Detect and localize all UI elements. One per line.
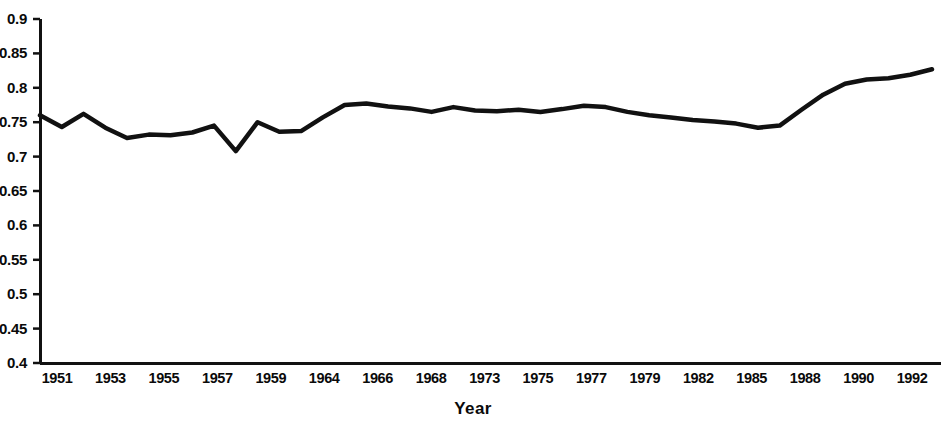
x-axis-tick-label: 1953 bbox=[83, 370, 137, 386]
x-axis-tick-label: 1992 bbox=[885, 370, 939, 386]
x-axis-tick-label: 1973 bbox=[458, 370, 512, 386]
x-axis-tick-label: 1951 bbox=[30, 370, 84, 386]
x-axis-tick-label: 1975 bbox=[511, 370, 565, 386]
x-axis-tick-label: 1990 bbox=[832, 370, 886, 386]
x-axis-tick-label: 1988 bbox=[778, 370, 832, 386]
x-axis-tick-label: 1964 bbox=[297, 370, 351, 386]
x-axis-tick-label: 1985 bbox=[725, 370, 779, 386]
x-axis-tick-label: 1959 bbox=[244, 370, 298, 386]
x-axis-tick-label: 1955 bbox=[137, 370, 191, 386]
x-axis-tick-labels: 1951195319551957195919641966196819731975… bbox=[0, 0, 946, 429]
x-axis-tick-label: 1979 bbox=[618, 370, 672, 386]
x-axis-title: Year bbox=[0, 399, 946, 419]
x-axis-tick-label: 1957 bbox=[190, 370, 244, 386]
x-axis-tick-label: 1982 bbox=[671, 370, 725, 386]
x-axis-tick-label: 1966 bbox=[351, 370, 405, 386]
x-axis-tick-label: 1977 bbox=[564, 370, 618, 386]
x-axis-tick-label: 1968 bbox=[404, 370, 458, 386]
chart-container: 0.90.850.80.750.70.650.60.550.50.450.4 1… bbox=[0, 0, 946, 429]
